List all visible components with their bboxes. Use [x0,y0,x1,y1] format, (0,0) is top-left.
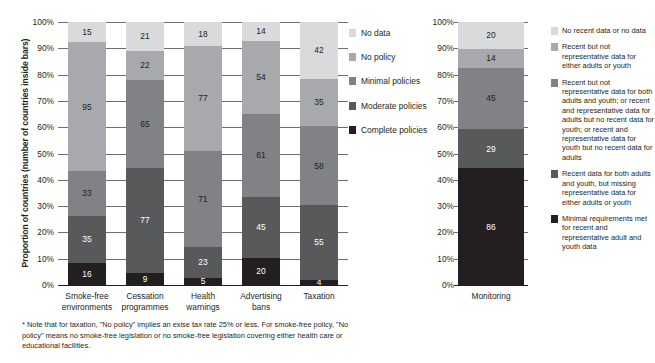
legend-swatch-icon [551,170,558,178]
bar-segment: 35 [68,216,106,263]
bar-segment: 5 [184,278,222,285]
bar-segment: 23 [184,247,222,278]
y-axis-tick-label: 0% [42,280,54,290]
bar-segment: 55 [300,205,338,280]
legend-label: Recent data for both adults and youth, b… [562,169,655,207]
y-axis-tick-label: 10% [437,254,454,264]
bar-segment-value: 20 [486,31,495,39]
bar-2: 977652221Cessationprogrammes [126,22,164,285]
category-label: Monitoring [453,291,529,302]
bar-segment-value: 65 [140,120,149,128]
monitoring-chart-legend: No recent data or no dataRecent but not … [551,26,655,259]
policy-legend-item-1: No data [349,28,444,38]
y-axis-tick-label: 90% [437,43,454,53]
legend-swatch-icon [551,215,558,223]
bar-segment-value: 18 [198,30,207,38]
footnote: * Note that for taxation, "No policy" im… [22,320,352,352]
bar-segment: 45 [458,68,524,129]
y-axis-tick-label: 40% [37,175,54,185]
y-axis-tick-label: 80% [37,70,54,80]
gridline [454,285,528,286]
bar-segment: 77 [184,46,222,150]
bar-segment: 20 [242,258,280,285]
policy-legend-item-4: Moderate policies [349,101,444,111]
bar-segment: 33 [68,171,106,216]
bar-segment: 18 [184,22,222,46]
bar-segment: 95 [68,42,106,171]
y-axis-tick-label: 40% [437,175,454,185]
bar-segment-value: 61 [256,151,265,159]
legend-swatch-icon [349,53,356,61]
legend-label: Recent but not representative data for b… [562,78,655,163]
bar-segment-value: 45 [486,94,495,102]
y-axis-tick-label: 50% [37,149,54,159]
legend-swatch-icon [349,102,356,110]
bar-segment-value: 35 [314,98,323,106]
y-axis-tick-label: 70% [437,96,454,106]
policy-chart-legend: No dataNo policyMinimal policiesModerate… [349,28,444,149]
bar-5: 455583542Taxation [300,22,338,285]
policy-chart-plot-area: 100%90%80%70%60%50%40%30%20%10%0%1635339… [58,22,348,285]
y-axis-tick-label: 60% [437,122,454,132]
bar-segment: 9 [126,273,164,285]
bar-segment: 61 [242,114,280,197]
y-axis-tick-label: 90% [37,43,54,53]
bar-segment: 65 [126,80,164,168]
y-axis-tick-label: 30% [37,201,54,211]
bar-segment: 42 [300,22,338,79]
policy-chart: Proportion of countries (number of count… [0,0,345,310]
bar-segment-value: 14 [486,54,495,62]
legend-label: Moderate policies [361,101,427,111]
monitoring-legend-item-1: No recent data or no data [551,26,655,35]
bar-segment: 35 [300,79,338,126]
bar-segment: 16 [68,263,106,285]
bar-1: 1635339515Smoke-freeenvironments [68,22,106,285]
bar-segment-value: 58 [314,162,323,170]
bar-segment: 22 [126,51,164,81]
bar-segment-value: 29 [486,145,495,153]
bar-segment-value: 35 [82,235,91,243]
y-axis-tick-label: 0% [442,280,454,290]
bar-segment-value: 15 [82,28,91,36]
y-axis-tick-label: 80% [437,70,454,80]
bar-segment-value: 23 [198,258,207,266]
category-label-line: bans [223,302,299,313]
bar-segment: 21 [126,22,164,50]
bar-segment: 54 [242,41,280,114]
bar-segment-value: 77 [140,216,149,224]
bar-3: 523717718Healthwarnings [184,22,222,285]
bar-segment-value: 20 [256,267,265,275]
monitoring-chart-plot-area: 100%90%80%70%60%50%40%30%20%10%0%8629451… [458,22,524,285]
figure-root: Proportion of countries (number of count… [0,0,655,363]
bar-segment-value: 22 [140,61,149,69]
bar-segment-value: 86 [486,223,495,231]
bar-segment: 20 [458,22,524,49]
bar-segment-value: 42 [314,46,323,54]
bar-segment-value: 45 [256,223,265,231]
bar-segment-value: 16 [82,270,91,278]
category-label-line: Monitoring [453,291,529,302]
bar-segment-value: 95 [82,103,91,111]
bar-segment-value: 54 [256,73,265,81]
bar-segment: 14 [242,22,280,41]
y-axis-tick-label: 30% [437,201,454,211]
policy-legend-item-2: No policy [349,52,444,62]
legend-swatch-icon [349,77,356,85]
y-axis-title: Proportion of countries (number of count… [20,8,30,298]
category-label: Taxation [281,291,357,302]
monitoring-legend-item-3: Recent but not representative data for b… [551,78,655,163]
legend-label: Minimal policies [361,76,420,86]
monitoring-legend-item-2: Recent but not representative data for e… [551,42,655,70]
legend-label: No data [361,28,390,38]
bar-segment: 4 [300,280,338,285]
bar-segment: 71 [184,151,222,247]
bar-segment-value: 77 [198,94,207,102]
legend-label: No policy [361,52,395,62]
policy-legend-item-5: Complete policies [349,125,444,135]
bar-segment: 15 [68,22,106,42]
category-label-line: Taxation [281,291,357,302]
bar-segment: 29 [458,129,524,168]
legend-swatch-icon [551,79,558,87]
y-axis-tick-label: 60% [37,122,54,132]
bar-segment-value: 14 [256,27,265,35]
